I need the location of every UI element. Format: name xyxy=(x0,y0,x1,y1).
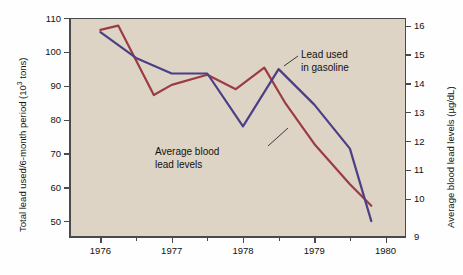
ytick-left-90 xyxy=(64,86,69,87)
chart-figure: 110 100 90 80 70 60 50 16 15 14 13 12 11… xyxy=(0,0,463,275)
ytick-right-10 xyxy=(406,199,411,200)
xtick-label-4: 1980 xyxy=(366,246,406,256)
ytick-right-11 xyxy=(406,170,411,171)
y-axis-left-title: Total lead used/6-month period (103 tons… xyxy=(16,58,29,232)
axis-line-bottom xyxy=(69,236,406,238)
xtick-label-2: 1978 xyxy=(223,246,263,256)
ytick-label-right-4: 12 xyxy=(414,137,438,147)
ytick-left-70 xyxy=(64,153,69,154)
xtick-minor-1978-5 xyxy=(279,238,280,241)
xtick-label-1: 1977 xyxy=(152,246,192,256)
ytick-label-right-6: 10 xyxy=(414,194,438,204)
xtick-1979 xyxy=(314,238,315,243)
axis-line-right xyxy=(405,18,407,238)
ytick-label-left-6: 50 xyxy=(28,217,61,227)
xtick-label-3: 1979 xyxy=(294,246,334,256)
y-axis-right-title: Average blood lead levels (µg/dL) xyxy=(446,86,456,228)
xtick-1978 xyxy=(243,238,244,243)
annotation-average-blood-lead-levels: Average blood lead levels xyxy=(155,146,219,171)
ytick-label-right-1: 15 xyxy=(414,50,438,60)
ytick-label-left-0: 110 xyxy=(28,14,61,24)
ytick-label-left-3: 80 xyxy=(28,115,61,125)
ytick-label-left-5: 60 xyxy=(28,183,61,193)
ytick-right-13 xyxy=(406,112,411,113)
y-axis-left-title-text: Total lead used/6-month period (10 xyxy=(17,85,28,232)
ytick-left-60 xyxy=(64,187,69,188)
annotation-lead-used-in-gasoline: Lead used in gasoline xyxy=(301,49,349,74)
axis-line-left xyxy=(69,18,71,238)
ytick-label-right-3: 13 xyxy=(414,108,438,118)
xtick-label-0: 1976 xyxy=(80,246,120,256)
xtick-1980 xyxy=(386,238,387,243)
ytick-label-left-1: 100 xyxy=(28,47,61,57)
ytick-label-left-4: 70 xyxy=(28,149,61,159)
ytick-left-80 xyxy=(64,120,69,121)
ytick-left-50 xyxy=(64,221,69,222)
ytick-right-15 xyxy=(406,54,411,55)
axis-line-top xyxy=(69,18,406,19)
plot-area-background xyxy=(70,18,405,237)
ytick-label-right-7: 9 xyxy=(414,232,438,242)
xtick-minor-1976-5 xyxy=(136,238,137,241)
xtick-minor-1979-5 xyxy=(350,238,351,241)
ytick-left-100 xyxy=(64,52,69,53)
xtick-1977 xyxy=(172,238,173,243)
xtick-minor-1977-5 xyxy=(207,238,208,241)
ytick-label-left-2: 90 xyxy=(28,81,61,91)
ytick-label-right-0: 16 xyxy=(414,21,438,31)
ytick-left-110 xyxy=(64,18,69,19)
ytick-right-12 xyxy=(406,141,411,142)
ytick-right-14 xyxy=(406,83,411,84)
ytick-label-right-5: 11 xyxy=(414,165,438,175)
xtick-1976 xyxy=(100,238,101,243)
y-axis-left-title-exponent: 3 xyxy=(16,81,23,85)
ytick-label-right-2: 14 xyxy=(414,79,438,89)
ytick-right-16 xyxy=(406,26,411,27)
y-axis-left-title-units: tons) xyxy=(17,58,28,82)
